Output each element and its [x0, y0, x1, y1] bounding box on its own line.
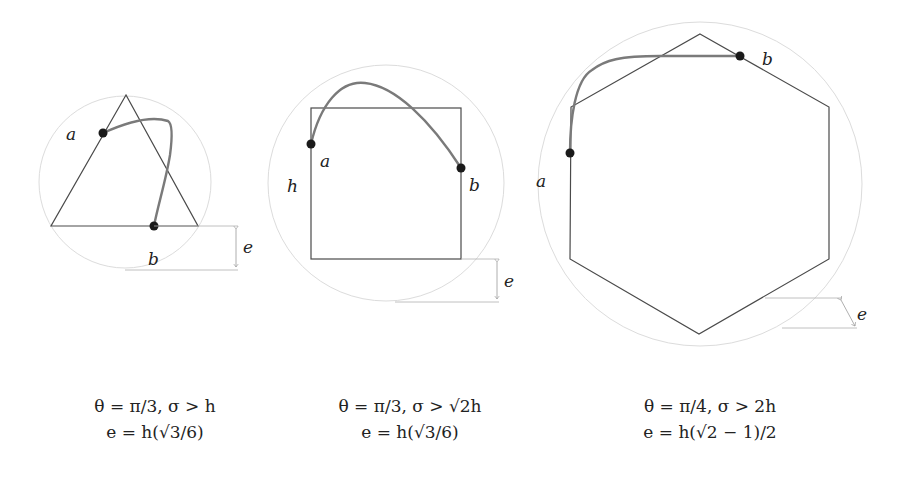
panel-triangle: a b e	[39, 95, 253, 270]
point-a	[99, 129, 108, 138]
square-shape	[311, 108, 461, 259]
caption-triangle: θ = π/3, σ > h e = h(√3/6)	[40, 393, 270, 445]
caption-line-2: e = h(√3/6)	[290, 419, 530, 445]
point-a	[566, 149, 575, 158]
caption-line-2: e = h(√3/6)	[40, 419, 270, 445]
label-h: h	[287, 176, 298, 196]
path-curve	[103, 119, 172, 226]
point-b	[736, 52, 745, 61]
caption-line-1: θ = π/4, σ > 2h	[590, 393, 830, 419]
caption-line-2: e = h(√2 − 1)/2	[590, 419, 830, 445]
path-curve	[570, 56, 740, 153]
panel-square: a b h e	[268, 65, 514, 302]
circumscribed-circle	[538, 22, 862, 346]
caption-square: θ = π/3, σ > √2h e = h(√3/6)	[290, 393, 530, 445]
label-a: a	[66, 124, 76, 144]
caption-line-1: θ = π/3, σ > √2h	[290, 393, 530, 419]
circumscribed-circle	[39, 96, 211, 268]
label-b: b	[148, 249, 159, 269]
label-e: e	[857, 304, 867, 324]
path-curve	[311, 83, 461, 168]
hexagon-shape	[570, 34, 829, 334]
label-e: e	[504, 271, 514, 291]
panel-hexagon: a b e	[536, 22, 867, 346]
caption-line-1: θ = π/3, σ > h	[40, 393, 270, 419]
triangle-shape	[51, 95, 198, 226]
caption-hexagon: θ = π/4, σ > 2h e = h(√2 − 1)/2	[590, 393, 830, 445]
point-a	[307, 140, 316, 149]
dimension-arrow	[841, 300, 855, 326]
label-b: b	[469, 175, 480, 195]
label-e: e	[243, 237, 253, 257]
label-a: a	[320, 151, 330, 171]
label-a: a	[536, 171, 546, 191]
label-b: b	[762, 49, 773, 69]
point-b	[457, 164, 466, 173]
